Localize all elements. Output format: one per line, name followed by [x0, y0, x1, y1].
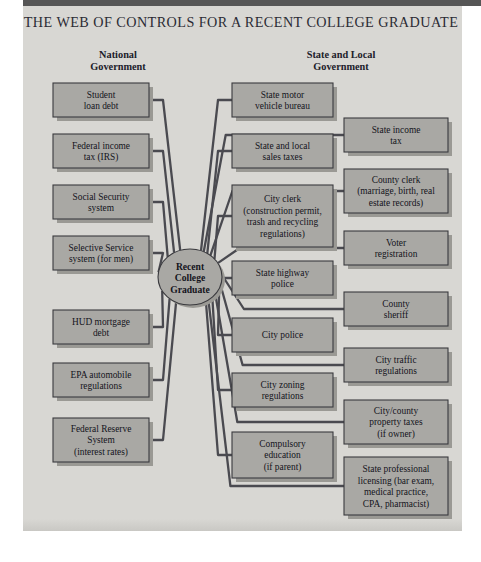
- node-boxes: Studentloan debtFederal incometax (IRS)S…: [53, 83, 452, 519]
- node-label-state-income-tax: tax: [390, 136, 402, 146]
- node-label-epa-automobile: EPA automobile: [71, 370, 132, 380]
- node-label-state-income-tax: State income: [372, 125, 421, 135]
- node-label-federal-reserve: Federal Reserve: [71, 424, 132, 434]
- node-label-city-clerk: (construction permit,: [243, 206, 322, 217]
- node-label-city-traffic-regulations: regulations: [375, 366, 417, 376]
- node-label-federal-reserve: System: [87, 435, 115, 445]
- node-label-city-county-property-taxes: property taxes: [369, 417, 423, 427]
- column-header-national-line2: Government: [90, 61, 146, 72]
- node-label-student-loan-debt: Student: [87, 90, 116, 100]
- node-label-selective-service: Selective Service: [69, 243, 134, 253]
- center-node-label: Graduate: [170, 284, 210, 295]
- node-box-voter-registration[interactable]: [344, 231, 448, 265]
- node-label-federal-reserve: (interest rates): [74, 447, 128, 458]
- node-label-state-motor-vehicle-bureau: State motor: [261, 90, 305, 100]
- node-label-city-zoning-regulations: regulations: [262, 391, 304, 401]
- node-box-selective-service[interactable]: [53, 236, 149, 270]
- figure-stage: Studentloan debtFederal incometax (IRS)S…: [0, 0, 481, 562]
- node-label-state-professional-licensing: State professional: [363, 464, 430, 474]
- node-label-compulsory-education: Compulsory: [259, 439, 306, 449]
- node-label-city-clerk: City clerk: [264, 194, 302, 204]
- node-box-county-sheriff[interactable]: [344, 292, 448, 326]
- node-label-state-professional-licensing: licensing (bar exam,: [358, 476, 434, 487]
- node-label-state-motor-vehicle-bureau: vehicle bureau: [255, 101, 310, 111]
- node-label-hud-mortgage-debt: debt: [93, 328, 110, 338]
- node-label-compulsory-education: (if parent): [264, 462, 302, 473]
- node-label-federal-income-tax: tax (IRS): [84, 152, 119, 163]
- node-box-federal-income-tax[interactable]: [53, 134, 149, 168]
- center-node-label: Recent: [176, 261, 205, 272]
- node-label-federal-income-tax: Federal income: [72, 141, 130, 151]
- node-box-city-traffic-regulations[interactable]: [344, 348, 448, 382]
- node-box-social-security[interactable]: [53, 185, 149, 219]
- node-label-voter-registration: Voter: [386, 238, 407, 248]
- node-label-state-local-sales-taxes: sales taxes: [263, 152, 303, 162]
- node-label-city-zoning-regulations: City zoning: [260, 380, 304, 390]
- figure-title: THE WEB OF CONTROLS FOR A RECENT COLLEGE…: [24, 14, 459, 30]
- node-label-city-county-property-taxes: City/county: [374, 406, 419, 416]
- node-label-state-highway-police: State highway: [256, 268, 310, 278]
- node-label-state-highway-police: police: [271, 279, 294, 289]
- node-label-social-security: system: [88, 203, 115, 213]
- node-box-state-motor-vehicle-bureau[interactable]: [232, 83, 333, 117]
- node-label-selective-service: system (for men): [69, 254, 133, 265]
- column-header-state-local-line2: Government: [313, 61, 369, 72]
- node-box-state-income-tax[interactable]: [344, 118, 448, 152]
- web-of-controls-diagram: Studentloan debtFederal incometax (IRS)S…: [0, 0, 481, 562]
- node-label-county-clerk: County clerk: [372, 175, 421, 185]
- node-label-city-county-property-taxes: (if owner): [377, 429, 415, 440]
- node-box-city-zoning-regulations[interactable]: [232, 373, 333, 407]
- column-header-national-line1: National: [99, 49, 137, 60]
- node-label-state-professional-licensing: CPA, pharmacist): [363, 499, 429, 510]
- node-label-student-loan-debt: loan debt: [84, 101, 119, 111]
- column-header-state-local-line1: State and Local: [307, 49, 376, 60]
- node-label-social-security: Social Security: [72, 192, 129, 202]
- node-label-city-traffic-regulations: City traffic: [375, 355, 416, 365]
- node-label-hud-mortgage-debt: HUD mortgage: [72, 317, 130, 327]
- node-label-city-clerk: trash and recycling: [247, 217, 319, 227]
- node-label-county-clerk: estate records): [369, 198, 423, 209]
- node-label-epa-automobile: regulations: [80, 381, 122, 391]
- center-node-label: College: [175, 272, 206, 283]
- node-label-state-professional-licensing: medical practice,: [364, 487, 428, 497]
- node-label-city-police: City police: [262, 330, 303, 340]
- node-box-hud-mortgage-debt[interactable]: [53, 310, 149, 344]
- node-box-student-loan-debt[interactable]: [53, 83, 149, 117]
- node-label-county-sheriff: sheriff: [384, 310, 409, 320]
- node-label-city-clerk: regulations): [260, 229, 305, 240]
- node-box-state-highway-police[interactable]: [232, 261, 333, 295]
- node-label-county-sheriff: County: [382, 299, 410, 309]
- node-label-county-clerk: (marriage, birth, real: [357, 186, 435, 197]
- node-box-state-local-sales-taxes[interactable]: [232, 134, 333, 168]
- node-label-state-local-sales-taxes: State and local: [255, 141, 311, 151]
- node-label-voter-registration: registration: [375, 249, 418, 259]
- node-label-compulsory-education: education: [264, 450, 301, 460]
- node-box-epa-automobile[interactable]: [53, 363, 149, 397]
